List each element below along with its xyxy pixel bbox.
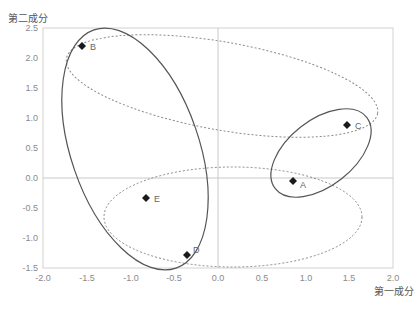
y-tick: 1.5 — [25, 83, 38, 93]
x-tick: -1.0 — [123, 273, 139, 283]
x-tick: -1.5 — [79, 273, 95, 283]
x-tick: 1.0 — [300, 273, 313, 283]
y-tick: 2.5 — [25, 23, 38, 33]
cluster-ellipse-solid-ac — [255, 91, 387, 214]
data-point-b: B — [78, 42, 96, 52]
y-tick: -1.5 — [22, 263, 38, 273]
data-points: A B C D E — [78, 42, 362, 259]
point-label: D — [193, 245, 200, 255]
x-tick: -2.0 — [35, 273, 51, 283]
diamond-marker-icon — [78, 42, 86, 50]
y-axis-title: 第二成分 — [8, 12, 48, 24]
x-tick: -0.5 — [166, 273, 182, 283]
y-tick: 1.0 — [25, 113, 38, 123]
x-axis-ticks: -2.0 -1.5 -1.0 -0.5 0.0 0.5 1.0 1.5 2.0 — [35, 273, 399, 283]
point-label: C — [355, 121, 362, 131]
y-tick: -1.0 — [22, 233, 38, 243]
diamond-marker-icon — [183, 251, 191, 259]
y-tick: 0.5 — [25, 143, 38, 153]
point-label: B — [90, 42, 96, 52]
y-tick: -0.5 — [22, 203, 38, 213]
point-label: A — [300, 180, 306, 190]
x-tick: 0.5 — [256, 273, 269, 283]
y-axis-ticks: 2.5 2.0 1.5 1.0 0.5 0.0 -0.5 -1.0 -1.5 — [22, 23, 38, 273]
cluster-ellipse-dotted-bc — [59, 15, 385, 157]
cluster-ellipse-solid-bed — [33, 9, 236, 289]
x-tick: 0.0 — [212, 273, 225, 283]
cluster-ellipse-dotted-eda — [104, 167, 362, 267]
scatter-chart: 2.5 2.0 1.5 1.0 0.5 0.0 -0.5 -1.0 -1.5 -… — [0, 0, 418, 311]
data-point-e: E — [142, 194, 160, 204]
x-axis-title: 第一成分 — [374, 285, 414, 297]
y-tick: 2.0 — [25, 53, 38, 63]
y-tick: 0.0 — [25, 173, 38, 183]
point-label: E — [154, 194, 160, 204]
data-point-c: C — [343, 121, 362, 131]
diamond-marker-icon — [142, 194, 150, 202]
diamond-marker-icon — [343, 121, 351, 129]
x-tick: 2.0 — [387, 273, 400, 283]
data-point-a: A — [289, 177, 306, 190]
x-tick: 1.5 — [343, 273, 356, 283]
